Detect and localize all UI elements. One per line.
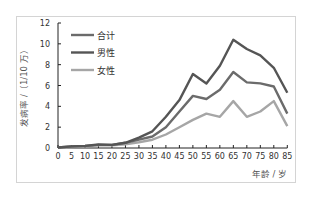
y-tick-label: 12 bbox=[40, 19, 50, 28]
x-tick-label: 15 bbox=[93, 152, 103, 161]
x-tick-label: 80 bbox=[269, 152, 279, 161]
plot-lines bbox=[58, 40, 287, 148]
x-tick-label: 65 bbox=[228, 152, 238, 161]
x-tick-label: 10 bbox=[80, 152, 90, 161]
x-tick-label: 40 bbox=[161, 152, 171, 161]
x-tick-label: 75 bbox=[255, 152, 265, 161]
y-tick-label: 10 bbox=[40, 40, 50, 49]
y-tick-label: 0 bbox=[45, 144, 50, 153]
x-tick-label: 85 bbox=[282, 152, 292, 161]
x-tick-label: 60 bbox=[215, 152, 225, 161]
x-tick-label: 55 bbox=[201, 152, 211, 161]
x-tick-label: 50 bbox=[188, 152, 198, 161]
x-axis-title: 年龄 / 岁 bbox=[252, 169, 287, 179]
y-tick-label: 8 bbox=[45, 61, 50, 70]
y-tick-label: 6 bbox=[45, 82, 50, 91]
y-axis-title: 发病率 /（1/10 万） bbox=[19, 45, 29, 126]
legend-label: 男性 bbox=[97, 47, 115, 58]
x-tick-label: 30 bbox=[134, 152, 144, 161]
axes: 0246810120510152025303540455055606570758… bbox=[40, 19, 293, 161]
legend-label: 女性 bbox=[97, 65, 115, 76]
x-tick-label: 20 bbox=[107, 152, 117, 161]
x-tick-label: 70 bbox=[242, 152, 252, 161]
x-tick-label: 35 bbox=[147, 152, 157, 161]
x-tick-label: 0 bbox=[55, 152, 60, 161]
legend: 合计男性女性 bbox=[71, 30, 115, 76]
x-tick-label: 5 bbox=[69, 152, 74, 161]
legend-label: 合计 bbox=[97, 30, 115, 41]
y-tick-label: 2 bbox=[45, 123, 50, 132]
y-tick-label: 4 bbox=[45, 102, 50, 111]
x-tick-label: 45 bbox=[174, 152, 184, 161]
line-chart: 0246810120510152025303540455055606570758… bbox=[0, 0, 313, 199]
x-tick-label: 25 bbox=[120, 152, 130, 161]
